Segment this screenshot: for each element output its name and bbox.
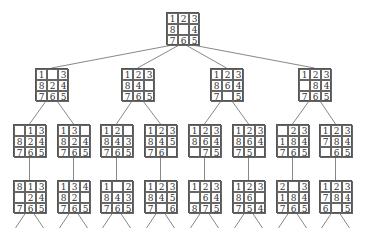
puzzle-board-l3a: 81324765 bbox=[13, 180, 46, 213]
tile: 5 bbox=[299, 147, 310, 158]
tile: 3 bbox=[36, 181, 47, 192]
tile: 2 bbox=[178, 13, 189, 24]
tile: 5 bbox=[299, 203, 310, 214]
tile: 7 bbox=[320, 136, 331, 147]
tile: 7 bbox=[200, 147, 211, 158]
puzzle-board-l2g: 23184765 bbox=[276, 124, 309, 157]
tile: 1 bbox=[189, 181, 200, 192]
puzzle-board-l2a: 13824765 bbox=[13, 124, 46, 157]
tile: 6 bbox=[244, 136, 255, 147]
tile: 6 bbox=[288, 203, 299, 214]
tile: 3 bbox=[211, 125, 222, 136]
tile: 1 bbox=[233, 181, 244, 192]
tile: 6 bbox=[200, 136, 211, 147]
tile: 1 bbox=[36, 69, 47, 80]
tile: 5 bbox=[233, 91, 244, 102]
puzzle-board-l1d: 12384765 bbox=[298, 68, 331, 101]
tile: 8 bbox=[310, 80, 321, 91]
tile: 2 bbox=[25, 136, 36, 147]
tile: 2 bbox=[222, 69, 233, 80]
blank-tile bbox=[189, 192, 200, 203]
tile: 6 bbox=[331, 147, 342, 158]
tile: 6 bbox=[167, 203, 178, 214]
puzzle-board-l2e: 12386475 bbox=[188, 124, 221, 157]
tile: 8 bbox=[331, 136, 342, 147]
tile: 7 bbox=[211, 91, 222, 102]
tile: 6 bbox=[320, 203, 331, 214]
tile: 3 bbox=[189, 13, 200, 24]
tile: 2 bbox=[69, 136, 80, 147]
tile: 4 bbox=[133, 80, 144, 91]
tile: 4 bbox=[80, 181, 91, 192]
tile: 1 bbox=[58, 125, 69, 136]
tile: 8 bbox=[331, 192, 342, 203]
tile: 5 bbox=[80, 203, 91, 214]
tile: 5 bbox=[244, 147, 255, 158]
tile: 8 bbox=[211, 80, 222, 91]
tile: 1 bbox=[58, 181, 69, 192]
tile: 3 bbox=[36, 125, 47, 136]
tile: 4 bbox=[112, 136, 123, 147]
blank-tile bbox=[320, 147, 331, 158]
tile: 2 bbox=[200, 125, 211, 136]
tile: 3 bbox=[69, 125, 80, 136]
tile: 1 bbox=[145, 125, 156, 136]
puzzle-board-l2h: 12378465 bbox=[319, 124, 352, 157]
puzzle-board-l2b: 13824765 bbox=[57, 124, 90, 157]
puzzle-board-root: 12384765 bbox=[166, 12, 199, 45]
tile: 6 bbox=[69, 147, 80, 158]
blank-tile bbox=[331, 203, 342, 214]
blank-tile bbox=[80, 125, 91, 136]
puzzle-board-l2f: 12386475 bbox=[232, 124, 265, 157]
blank-tile bbox=[255, 147, 266, 158]
tile: 6 bbox=[222, 80, 233, 91]
blank-tile bbox=[288, 181, 299, 192]
tile: 7 bbox=[14, 203, 25, 214]
tile: 3 bbox=[299, 125, 310, 136]
tile: 2 bbox=[310, 69, 321, 80]
tile: 7 bbox=[145, 203, 156, 214]
tile: 4 bbox=[189, 24, 200, 35]
tile: 3 bbox=[123, 136, 134, 147]
tile: 8 bbox=[189, 203, 200, 214]
tile: 4 bbox=[299, 192, 310, 203]
blank-tile bbox=[299, 80, 310, 91]
tile: 7 bbox=[58, 147, 69, 158]
tile: 2 bbox=[331, 125, 342, 136]
tile: 5 bbox=[123, 147, 134, 158]
tile: 2 bbox=[69, 192, 80, 203]
tile: 7 bbox=[36, 91, 47, 102]
blank-tile bbox=[277, 125, 288, 136]
tile: 5 bbox=[167, 136, 178, 147]
tile: 5 bbox=[167, 192, 178, 203]
tile: 6 bbox=[69, 203, 80, 214]
puzzle-board-l3h: 12378465 bbox=[319, 180, 352, 213]
tile: 3 bbox=[123, 192, 134, 203]
tile: 7 bbox=[101, 147, 112, 158]
tile: 1 bbox=[25, 125, 36, 136]
blank-tile bbox=[144, 80, 155, 91]
tile: 5 bbox=[123, 203, 134, 214]
puzzle-board-l1b: 12384765 bbox=[121, 68, 154, 101]
tile: 6 bbox=[25, 203, 36, 214]
tile: 5 bbox=[144, 91, 155, 102]
tile: 3 bbox=[233, 69, 244, 80]
tile: 2 bbox=[156, 125, 167, 136]
tile: 7 bbox=[122, 91, 133, 102]
tile: 8 bbox=[145, 192, 156, 203]
tile: 2 bbox=[288, 125, 299, 136]
blank-tile bbox=[14, 192, 25, 203]
tile: 1 bbox=[277, 192, 288, 203]
tile: 5 bbox=[211, 203, 222, 214]
puzzle-board-l3c: 12843765 bbox=[100, 180, 133, 213]
tile: 4 bbox=[321, 80, 332, 91]
tile: 4 bbox=[112, 192, 123, 203]
tile: 5 bbox=[342, 147, 353, 158]
blank-tile bbox=[156, 203, 167, 214]
tile: 8 bbox=[145, 136, 156, 147]
tile: 1 bbox=[320, 125, 331, 136]
tile: 6 bbox=[25, 147, 36, 158]
tile: 5 bbox=[189, 35, 200, 46]
tile: 8 bbox=[167, 24, 178, 35]
puzzle-board-l2c: 12843765 bbox=[100, 124, 133, 157]
